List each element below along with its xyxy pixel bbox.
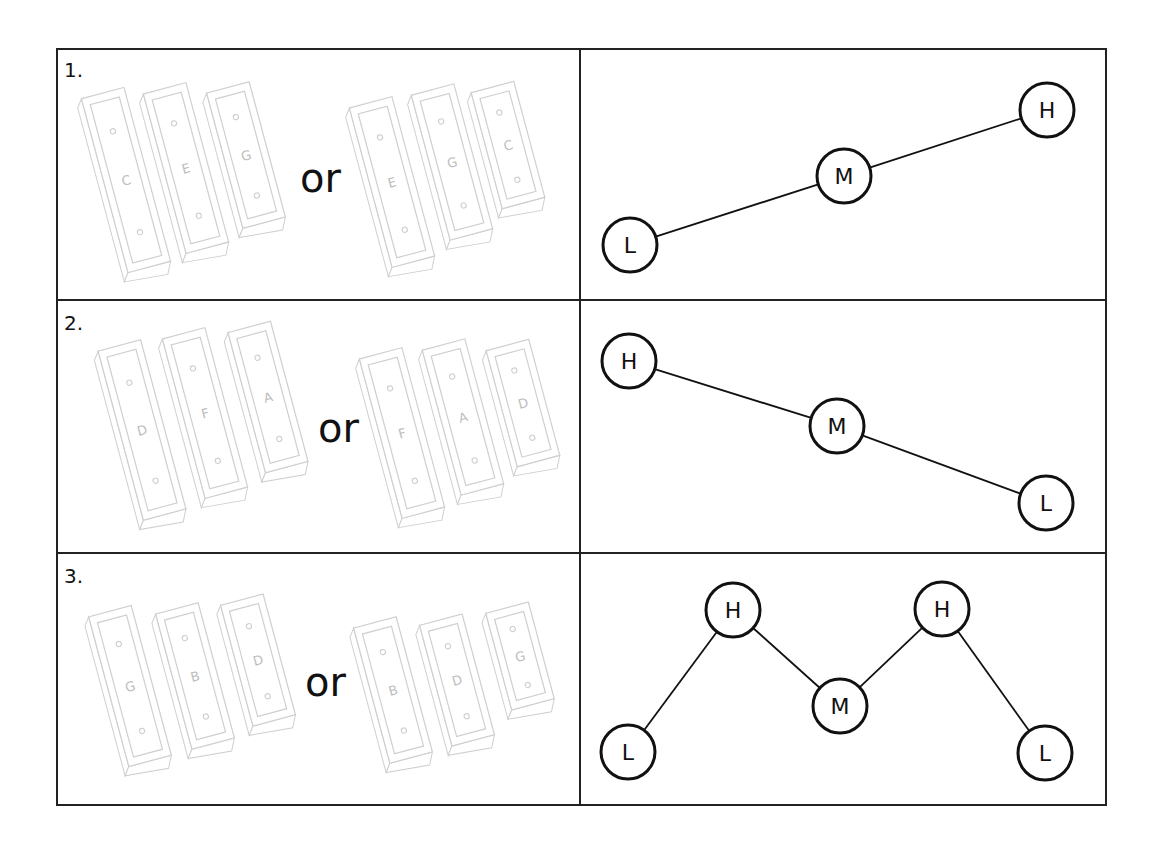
bar-group-option-b: FAD	[354, 339, 563, 532]
contour-edge	[656, 184, 819, 236]
pitch-node-l: L	[601, 725, 655, 779]
svg-text:L: L	[1040, 491, 1053, 516]
pitch-node-l: L	[1018, 726, 1072, 780]
svg-text:H: H	[621, 349, 638, 374]
contour-edge	[870, 118, 1022, 167]
row-3-or-connector: or	[305, 662, 346, 702]
bar-group-option-b: EGC	[344, 81, 548, 280]
contour-edge	[655, 369, 811, 418]
worksheet-drawing: CEGEGCLMHDFAFADHMLGBDBDGLHMHL	[0, 0, 1162, 843]
contour-edge	[862, 435, 1020, 493]
row-3: GBDBDGLHMHL	[83, 582, 1072, 780]
bar-group-option-a: CEG	[76, 82, 289, 286]
row-3-number: 3.	[64, 564, 83, 588]
contour-diagram-descending: HML	[602, 334, 1073, 530]
svg-text:L: L	[622, 740, 635, 765]
contour-edge	[753, 628, 820, 688]
row-1-number: 1.	[64, 58, 83, 82]
svg-text:M: M	[828, 414, 847, 439]
contour-diagram-zigzag: LHMHL	[601, 582, 1072, 780]
svg-text:H: H	[1039, 98, 1056, 123]
bar-group-option-b: BDG	[348, 602, 557, 776]
bar-group-option-a: GBD	[83, 594, 299, 780]
contour-edge	[958, 631, 1030, 731]
pitch-node-h: H	[1020, 83, 1074, 137]
svg-text:L: L	[1039, 741, 1052, 766]
svg-text:H: H	[934, 597, 951, 622]
worksheet: CEGEGCLMHDFAFADHMLGBDBDGLHMHL 1. 2. 3. o…	[0, 0, 1162, 843]
svg-text:L: L	[624, 233, 637, 258]
contour-edge	[644, 632, 717, 731]
pitch-node-l: L	[1019, 476, 1073, 530]
bar-group-option-a: DFA	[92, 321, 311, 533]
svg-text:M: M	[835, 164, 854, 189]
svg-text:M: M	[831, 694, 850, 719]
pitch-node-m: M	[817, 149, 871, 203]
row-2: DFAFADHML	[92, 321, 1073, 533]
row-2-or-connector: or	[318, 408, 359, 448]
contour-edge	[860, 628, 923, 688]
svg-text:H: H	[725, 598, 742, 623]
row-2-number: 2.	[64, 311, 83, 335]
row-1: CEGEGCLMH	[76, 81, 1074, 285]
pitch-node-h: H	[602, 334, 656, 388]
pitch-node-m: M	[813, 679, 867, 733]
tone-bar-g: G	[480, 602, 557, 723]
pitch-node-h: H	[915, 582, 969, 636]
contour-diagram-ascending: LMH	[603, 83, 1074, 272]
pitch-node-m: M	[810, 399, 864, 453]
row-1-or-connector: or	[300, 158, 341, 198]
pitch-node-h: H	[706, 583, 760, 637]
pitch-node-l: L	[603, 218, 657, 272]
